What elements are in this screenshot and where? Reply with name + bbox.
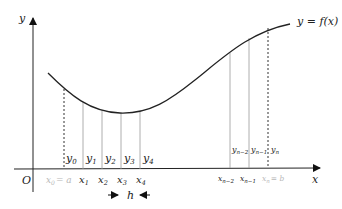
label-yn2: yn−2 bbox=[231, 145, 249, 155]
label-xn1: xn−1 bbox=[240, 174, 256, 184]
label-y0: y0 bbox=[65, 152, 77, 166]
label-y2: y2 bbox=[104, 152, 116, 166]
step-label: h bbox=[127, 189, 134, 202]
label-x3: x3 bbox=[117, 174, 127, 187]
label-y4: y4 bbox=[142, 152, 154, 166]
label-x4: x4 bbox=[136, 174, 146, 187]
label-xn-b: xn= b bbox=[262, 174, 284, 184]
curve-label: y = f(x) bbox=[296, 15, 338, 28]
label-xn2: xn−2 bbox=[218, 174, 234, 184]
x-axis bbox=[14, 168, 320, 169]
y-axis-label: y bbox=[18, 12, 26, 25]
label-yn: yn bbox=[270, 145, 280, 155]
label-yn1: yn−1 bbox=[250, 145, 267, 155]
label-y1: y1 bbox=[85, 152, 97, 166]
step-width-indicator: h bbox=[108, 189, 150, 202]
label-x2: x2 bbox=[98, 174, 108, 187]
function-curve bbox=[48, 24, 290, 113]
origin-label: O bbox=[22, 174, 31, 187]
label-y3: y3 bbox=[123, 152, 135, 166]
label-x1: x1 bbox=[79, 174, 89, 187]
label-x0-a: x0= a bbox=[46, 175, 72, 186]
integration-diagram: y x O y = f(x) y0 y1 y2 y3 y4 yn−2 yn−1 … bbox=[0, 0, 342, 209]
x-axis-label: x bbox=[312, 173, 319, 186]
